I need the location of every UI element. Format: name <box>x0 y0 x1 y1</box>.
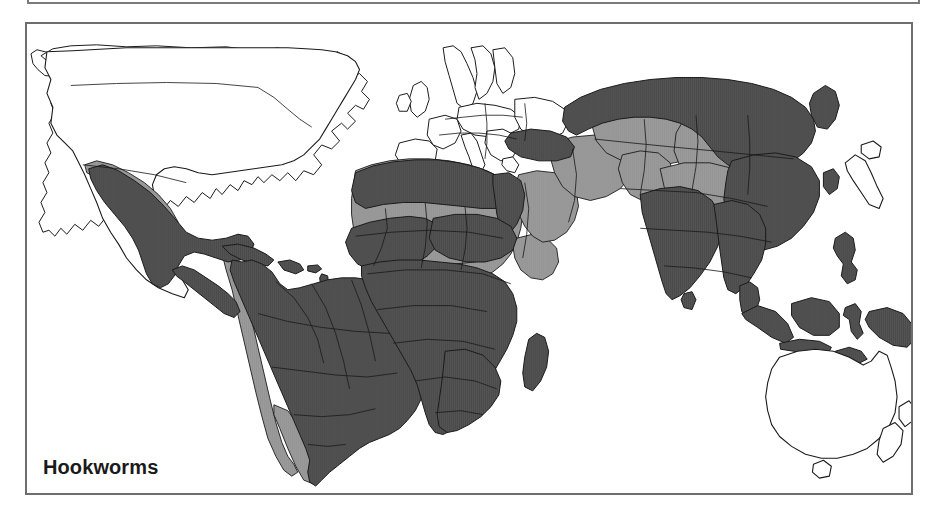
hookworms-map-panel: Hookworms <box>25 22 913 495</box>
map-caption-label: Hookworms <box>43 457 158 477</box>
world-distribution-map <box>27 24 911 493</box>
previous-panel-bottom-edge <box>27 0 920 4</box>
figure-page: Hookworms <box>0 0 934 516</box>
